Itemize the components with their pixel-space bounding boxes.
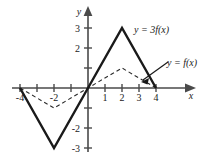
x-axis-label: x	[188, 90, 194, 101]
x-tick-label-4: 4	[154, 92, 159, 103]
x-tick-label-2: 2	[120, 92, 125, 103]
y-tick-label-2: 2	[75, 43, 80, 54]
curve-label-3f-of-x: y = 3f(x)	[133, 24, 170, 36]
curve-label-f-of-x: y = f(x)	[166, 57, 198, 69]
graph-figure: -4 -2 1 2 3 4 3 2 -2 -3 x y y = 3f(x) y …	[0, 0, 211, 156]
y-axis-arrowhead	[84, 6, 93, 16]
y-tick-label--3: -3	[72, 143, 80, 154]
x-tick-label--4: -4	[16, 92, 24, 103]
x-tick-label--2: -2	[50, 92, 58, 103]
y-tick-label-3: 3	[75, 23, 80, 34]
y-tick-label--2: -2	[72, 123, 80, 134]
x-tick-label-1: 1	[103, 92, 108, 103]
x-tick-label-3: 3	[137, 92, 142, 103]
y-axis-label: y	[76, 6, 82, 17]
